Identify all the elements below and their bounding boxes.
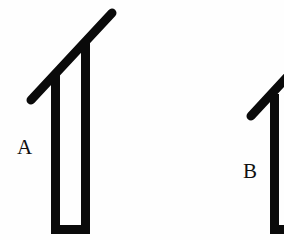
figure-b-label: B — [243, 161, 257, 182]
figure-a-diagonal — [31, 13, 112, 100]
figure-b — [251, 74, 284, 230]
figure-a — [31, 13, 112, 230]
figure-a-label: A — [17, 137, 32, 158]
figure-b-diagonal — [251, 74, 284, 116]
diagram-figures — [0, 0, 284, 240]
diagram-canvas: A B — [0, 0, 284, 240]
figure-b-tall-rectangle — [275, 94, 285, 230]
